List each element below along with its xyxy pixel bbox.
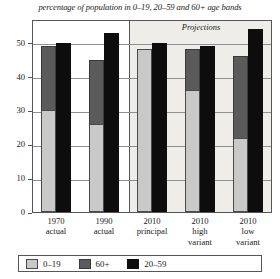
y-tick-label: 0 xyxy=(2,207,25,217)
y-tick-mark xyxy=(28,145,32,146)
y-tick-mark xyxy=(28,213,32,214)
chart-legend: 0–1960+20–59 xyxy=(18,255,262,272)
x-axis-category-line: high xyxy=(176,226,224,236)
legend-swatch-icon xyxy=(79,259,91,269)
x-axis-category-line: 1970 xyxy=(32,216,80,226)
bar-20-59 xyxy=(104,33,119,212)
x-axis-category-line: actual xyxy=(32,226,80,236)
chart-figure: percentage of population in 0–19, 20–59 … xyxy=(0,0,280,279)
bar-0-19 xyxy=(89,124,104,212)
projections-divider xyxy=(129,21,130,212)
x-axis-category-line: principal xyxy=(128,226,176,236)
bar-0-19 xyxy=(233,138,248,212)
y-tick-label: 40 xyxy=(2,72,25,82)
legend-item: 20–59 xyxy=(127,259,166,269)
bar-0-19 xyxy=(41,110,56,212)
x-axis-category-line: 2010 xyxy=(128,216,176,226)
legend-label: 60+ xyxy=(96,259,110,269)
bar-20-59 xyxy=(200,46,215,212)
chart-title: percentage of population in 0–19, 20–59 … xyxy=(0,2,280,12)
x-axis-category-label: 1970actual xyxy=(32,216,80,237)
bar-20-59 xyxy=(56,43,71,212)
bar-0-19 xyxy=(137,49,152,212)
y-tick-label: 50 xyxy=(2,38,25,48)
y-tick-label: 10 xyxy=(2,173,25,183)
legend-item: 0–19 xyxy=(26,259,61,269)
x-axis-category-label: 2010lowvariant xyxy=(224,216,272,247)
legend-swatch-icon xyxy=(26,259,38,269)
bar-0-19 xyxy=(185,90,200,212)
x-axis-category-label: 1990actual xyxy=(80,216,128,237)
legend-swatch-icon xyxy=(127,259,139,269)
legend-label: 0–19 xyxy=(43,259,61,269)
y-tick-mark xyxy=(28,43,32,44)
x-axis-category-label: 2010highvariant xyxy=(176,216,224,247)
x-axis-category-line: variant xyxy=(176,237,224,247)
x-axis-category-line: 2010 xyxy=(176,216,224,226)
y-tick-mark xyxy=(28,77,32,78)
y-tick-label: 20 xyxy=(2,139,25,149)
legend-label: 20–59 xyxy=(144,259,166,269)
x-axis-category-line: low xyxy=(224,226,272,236)
y-tick-mark xyxy=(28,111,32,112)
x-axis-category-line: variant xyxy=(224,237,272,247)
legend-item: 60+ xyxy=(79,259,110,269)
x-axis-category-line: 2010 xyxy=(224,216,272,226)
x-axis-category-label: 2010principal xyxy=(128,216,176,237)
bar-20-59 xyxy=(248,29,263,212)
bar-20-59 xyxy=(152,43,167,212)
x-axis-category-line: 1990 xyxy=(80,216,128,226)
plot-area: Projections xyxy=(32,20,272,213)
x-axis-category-line: actual xyxy=(80,226,128,236)
y-tick-mark xyxy=(28,179,32,180)
y-tick-label: 30 xyxy=(2,105,25,115)
